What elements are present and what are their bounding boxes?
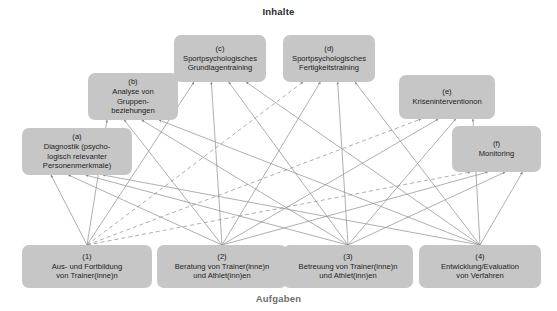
node-content-e[interactable]: (e)Kriseninterventionon: [399, 75, 495, 119]
edge-2-to-a: [68, 175, 222, 245]
node-label: Betreuung von Trainer(inne)n und Athlet(…: [299, 262, 398, 281]
edge-3-to-b: [142, 120, 348, 245]
node-tag: (d): [324, 44, 333, 54]
node-task-4[interactable]: (4)Entwicklung/Evaluation von Verfahren: [419, 245, 541, 288]
node-content-f[interactable]: (f)Monitoring: [452, 126, 541, 172]
edge-3-to-e: [348, 119, 456, 245]
node-label: Monitoring: [479, 149, 514, 159]
edge-4-to-f: [480, 172, 523, 245]
edge-3-to-a: [86, 175, 348, 245]
node-tag: (4): [475, 252, 484, 262]
node-label: Analyse von Gruppen- beziehungen: [111, 87, 155, 116]
node-label: Beratung von Trainer(inne)n und Athlet(i…: [175, 262, 270, 281]
top-axis-title: Inhalte: [0, 6, 557, 17]
node-tag: (1): [82, 252, 91, 262]
node-task-1[interactable]: (1)Aus- und Fortbildung von Trainer(inne…: [22, 245, 152, 288]
node-content-d[interactable]: (d)Sportpsychologisches Fertigkeitstrain…: [283, 35, 375, 82]
node-task-2[interactable]: (2)Beratung von Trainer(inne)n und Athle…: [157, 245, 287, 288]
node-tag: (c): [216, 44, 225, 54]
node-tag: (2): [217, 252, 226, 262]
node-label: Aus- und Fortbildung von Trainer(inne)n: [52, 262, 123, 281]
edge-2-to-f: [222, 172, 488, 245]
edge-3-to-c: [229, 82, 348, 245]
node-task-3[interactable]: (3)Betreuung von Trainer(inne)n und Athl…: [283, 245, 413, 288]
node-tag: (b): [128, 77, 137, 87]
node-label: Sportpsychologisches Fertigkeitstraining: [292, 54, 366, 73]
node-label: Entwicklung/Evaluation von Verfahren: [441, 262, 519, 281]
node-label: Kriseninterventionon: [412, 97, 481, 107]
node-label: Sportpsychologisches Grundlagentraining: [183, 54, 257, 73]
edge-1-to-a: [51, 175, 87, 245]
edge-3-to-f: [348, 172, 505, 245]
node-tag: (a): [72, 132, 81, 142]
node-tag: (3): [343, 252, 352, 262]
node-tag: (f): [493, 139, 500, 149]
edge-2-to-d: [222, 82, 320, 245]
edge-3-to-d: [338, 82, 348, 245]
node-content-a[interactable]: (a)Diagnostik (psycho- logisch relevante…: [22, 128, 132, 175]
node-tag: (e): [442, 87, 451, 97]
node-label: Diagnostik (psycho- logisch relevanter P…: [43, 142, 111, 171]
node-content-c[interactable]: (c)Sportpsychologisches Grundlagentraini…: [174, 35, 266, 82]
node-content-b[interactable]: (b)Analyse von Gruppen- beziehungen: [88, 73, 178, 120]
bottom-axis-title: Aufgaben: [0, 293, 557, 304]
figure-canvas: Inhalte Aufgaben (a)Diagnostik (psycho- …: [0, 0, 557, 311]
